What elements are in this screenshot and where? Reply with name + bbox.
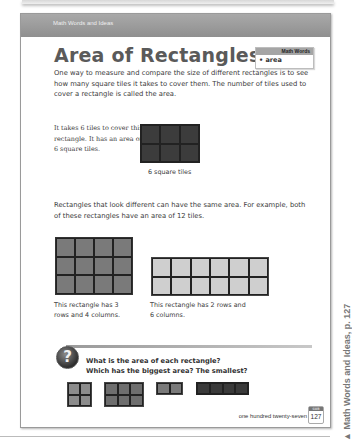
section-label: Math Words and Ideas (53, 20, 113, 26)
side-reference-caption: ▲ Math Words and Ideas, p. 127 (342, 304, 352, 441)
question-shape-2x3 (104, 382, 144, 407)
page-number: 127 (309, 411, 323, 422)
example-rectangle-2x3 (140, 124, 200, 163)
question-ribbon (66, 345, 312, 348)
question-mark-icon: ? (56, 346, 79, 369)
rectangle-3x4 (55, 237, 133, 295)
example-caption: 6 square tiles (148, 168, 191, 178)
question-shape-1x4 (196, 382, 249, 395)
math-words-box: Math Words • area (255, 47, 314, 69)
math-word-item: • area (256, 55, 313, 66)
question-shape-2x2 (67, 382, 92, 407)
rectangle-3x4-caption: This rectangle has 3 rows and 4 columns. (54, 301, 134, 320)
math-words-heading: Math Words (256, 48, 313, 55)
example-text: It takes 6 tiles to cover this rectangle… (54, 123, 144, 155)
question-text: What is the area of each rectangle? Whic… (86, 356, 247, 376)
page-title: Area of Rectangles (54, 44, 260, 66)
previous-page-edge (22, 0, 334, 4)
question-shape-1x2 (156, 382, 183, 395)
section-header-band: Math Words and Ideas (21, 14, 330, 37)
question-line-1: What is the area of each rectangle? (86, 356, 247, 366)
rectangle-2x6-caption: This rectangle has 2 rows and 6 columns. (150, 301, 250, 320)
page-number-words: one hundred twenty-seven (239, 413, 307, 419)
second-paragraph: Rectangles that look different can have … (54, 200, 314, 221)
rectangle-2x6 (151, 257, 269, 296)
page-number-badge: SWB 127 (308, 406, 324, 424)
question-line-2: Which has the biggest area? The smallest… (86, 366, 247, 376)
textbook-page: Math Words and Ideas Area of Rectangles … (20, 13, 331, 428)
page-bottom-divider (0, 436, 330, 437)
intro-paragraph: One way to measure and compare the size … (54, 68, 314, 100)
